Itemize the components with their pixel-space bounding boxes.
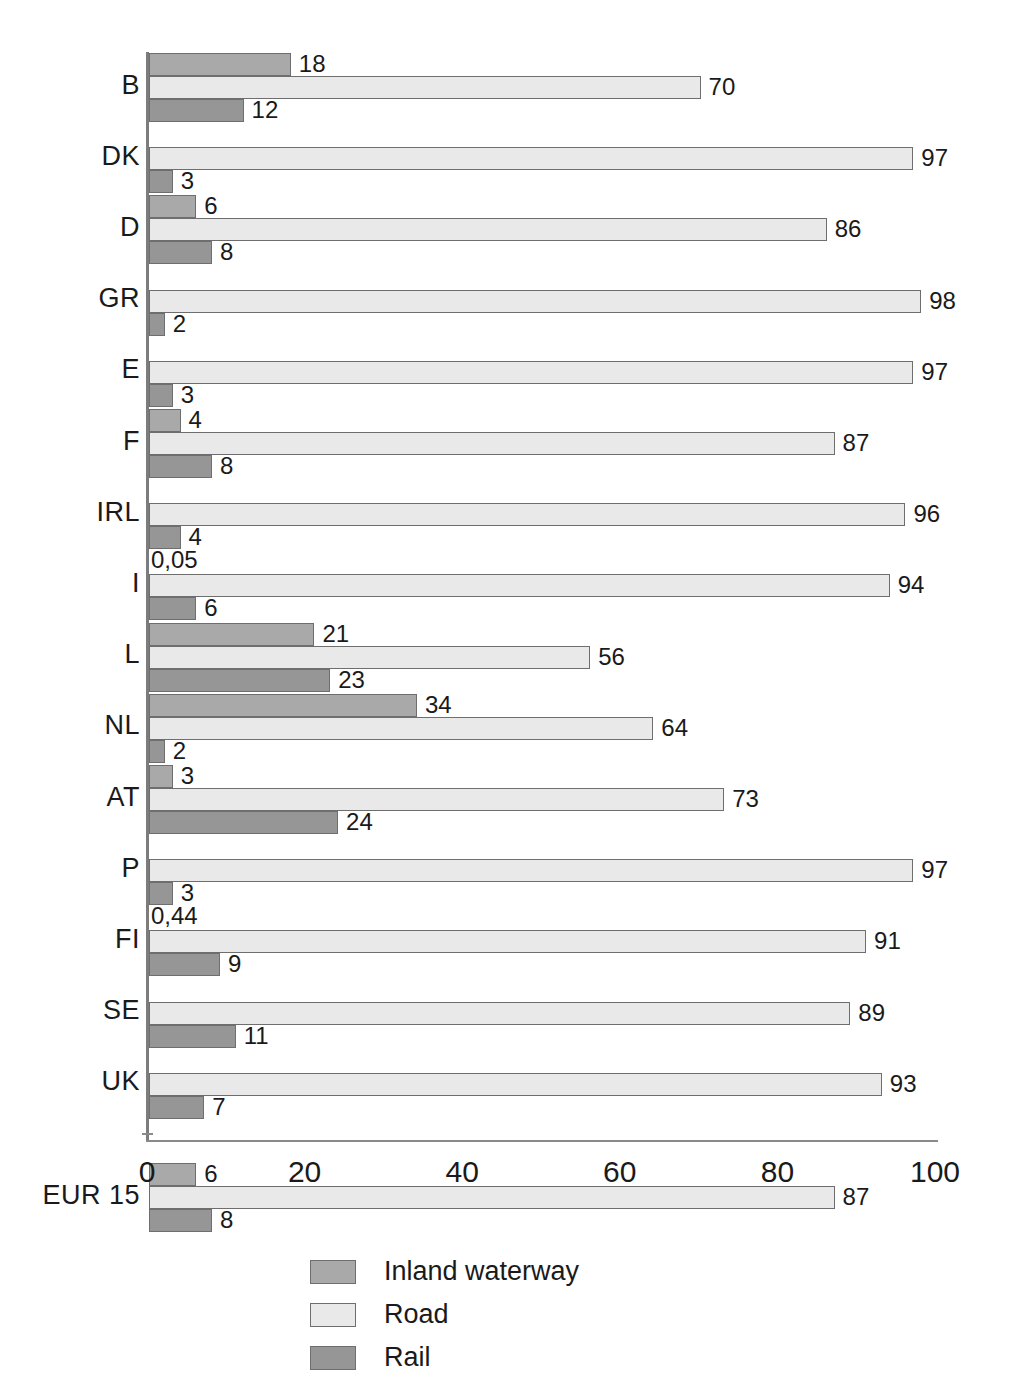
bar-value-label: 3 [181, 168, 194, 194]
bar-rail [149, 811, 338, 834]
bar-group: DK973 [0, 124, 1026, 193]
bar-row: 21 [149, 623, 314, 646]
bar-value-label: 97 [921, 145, 948, 171]
bar-road [149, 218, 827, 241]
bar-road [149, 76, 701, 99]
bar-row: 2 [149, 313, 165, 336]
bar-value-label: 11 [244, 1023, 269, 1049]
bar-group: IRL964 [0, 480, 1026, 549]
category-label: FI [0, 924, 140, 955]
bar-road [149, 859, 913, 882]
bar-row: 6 [149, 597, 196, 620]
bar-value-label: 0,44 [151, 903, 198, 929]
bar-rail [149, 241, 212, 264]
bar-road [149, 503, 905, 526]
bar-value-label: 8 [220, 453, 233, 479]
bar-value-label: 23 [338, 667, 365, 693]
x-tick-label: 80 [717, 1155, 837, 1189]
bar-rail [149, 1025, 236, 1048]
bar-value-label: 24 [346, 809, 373, 835]
bar-row: 86 [149, 218, 827, 241]
bar-value-label: 96 [913, 501, 940, 527]
bar-value-label: 8 [220, 239, 233, 265]
bar-row: 3 [149, 384, 173, 407]
bar-group: GR982 [0, 267, 1026, 336]
category-label: I [0, 568, 140, 599]
bar-group: E973 [0, 338, 1026, 407]
bar-rail [149, 669, 330, 692]
legend-label-road: Road [384, 1299, 449, 1330]
bar-row: 93 [149, 1073, 882, 1096]
bar-row: 3 [149, 170, 173, 193]
bar-row: 6 [149, 195, 196, 218]
category-label: DK [0, 141, 140, 172]
bar-value-label: 94 [898, 572, 925, 598]
bar-row: 91 [149, 930, 866, 953]
bar-row: 97 [149, 361, 913, 384]
bar-group: SE8911 [0, 979, 1026, 1048]
bar-row: 96 [149, 503, 905, 526]
bar-rail [149, 170, 173, 193]
bar-row: 97 [149, 859, 913, 882]
bar-value-label: 18 [299, 51, 326, 77]
category-label: B [0, 70, 140, 101]
category-label: AT [0, 782, 140, 813]
bar-road [149, 147, 913, 170]
legend-swatch-rail [310, 1346, 356, 1370]
x-tick-label: 40 [402, 1155, 522, 1189]
bar-iw [149, 623, 314, 646]
legend-label-iw: Inland waterway [384, 1256, 579, 1287]
bar-row: 23 [149, 669, 330, 692]
bar-row: 70 [149, 76, 701, 99]
legend-item-road: Road [310, 1296, 579, 1333]
bar-value-label: 21 [322, 621, 349, 647]
bar-rail [149, 740, 165, 763]
bar-road [149, 1073, 882, 1096]
bar-value-label: 86 [835, 216, 862, 242]
legend-swatch-iw [310, 1260, 356, 1284]
bar-group: L215623 [0, 623, 1026, 692]
bar-group: AT37324 [0, 765, 1026, 834]
bar-row: 18 [149, 53, 291, 76]
bar-row: 56 [149, 646, 590, 669]
legend-label-rail: Rail [384, 1342, 431, 1373]
bar-iw [149, 53, 291, 76]
x-axis-zero-tick [142, 1133, 153, 1135]
bar-road [149, 717, 653, 740]
bar-rail [149, 313, 165, 336]
bar-value-label: 93 [890, 1071, 917, 1097]
category-label: SE [0, 995, 140, 1026]
bar-value-label: 87 [843, 430, 870, 456]
category-label: UK [0, 1066, 140, 1097]
bar-group: P973 [0, 836, 1026, 905]
bar-row: 8 [149, 1209, 212, 1232]
bar-rail [149, 455, 212, 478]
legend-item-rail: Rail [310, 1339, 579, 1374]
bar-value-label: 64 [661, 715, 688, 741]
category-label: L [0, 639, 140, 670]
bar-row: 87 [149, 432, 835, 455]
bar-value-label: 56 [598, 644, 625, 670]
bar-iw [149, 694, 417, 717]
bar-value-label: 8 [220, 1207, 233, 1233]
category-label: GR [0, 283, 140, 314]
bar-road [149, 290, 921, 313]
bar-road [149, 788, 724, 811]
bar-row: 94 [149, 574, 890, 597]
category-label: E [0, 354, 140, 385]
bar-value-label: 87 [843, 1184, 870, 1210]
bar-value-label: 2 [173, 738, 186, 764]
x-tick-label: 100 [875, 1155, 995, 1189]
bar-value-label: 97 [921, 857, 948, 883]
bar-rail [149, 953, 220, 976]
bar-road [149, 930, 866, 953]
bar-iw [149, 409, 181, 432]
bar-row: 98 [149, 290, 921, 313]
bar-value-label: 98 [929, 288, 956, 314]
category-label: D [0, 212, 140, 243]
bar-row: 11 [149, 1025, 236, 1048]
bar-road [149, 1186, 835, 1209]
bar-group: FI0,44919 [0, 907, 1026, 976]
bar-row: 3 [149, 765, 173, 788]
bar-row: 34 [149, 694, 417, 717]
